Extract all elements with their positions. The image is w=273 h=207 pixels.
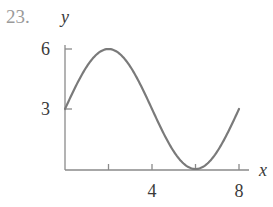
x-tick-label: 4 xyxy=(148,181,157,201)
sine-curve xyxy=(65,49,239,169)
x-ticks xyxy=(109,164,240,170)
x-tick-labels: 48 xyxy=(148,181,244,201)
y-tick-label: 6 xyxy=(41,39,50,59)
axes xyxy=(65,45,249,170)
y-axis-label: y xyxy=(59,7,69,27)
sine-graph: 23. y 36 48 x xyxy=(0,0,273,207)
y-tick-labels: 36 xyxy=(41,39,50,119)
problem-number: 23. xyxy=(6,6,30,27)
y-tick-label: 3 xyxy=(41,99,50,119)
x-tick-label: 8 xyxy=(235,181,244,201)
x-axis-label: x xyxy=(258,160,267,180)
